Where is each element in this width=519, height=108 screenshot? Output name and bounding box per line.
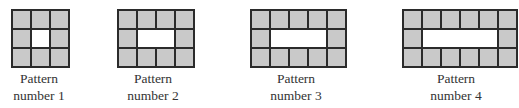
label-line-2: number 2 bbox=[127, 87, 178, 104]
label-line-1: Pattern bbox=[127, 70, 178, 87]
gray-tile bbox=[499, 11, 516, 28]
gray-tile bbox=[51, 49, 68, 66]
label-line-2: number 1 bbox=[13, 87, 64, 104]
tile-grid-4 bbox=[402, 9, 518, 68]
pattern-3-label: Pattern number 3 bbox=[270, 70, 321, 104]
hole bbox=[32, 30, 49, 47]
gray-tile bbox=[32, 11, 49, 28]
label-line-1: Pattern bbox=[270, 70, 321, 87]
gray-tile bbox=[13, 11, 30, 28]
label-line-2: number 4 bbox=[430, 87, 481, 104]
gray-tile bbox=[176, 11, 193, 28]
gray-tile bbox=[252, 49, 269, 66]
gray-tile bbox=[328, 49, 345, 66]
gray-tile bbox=[157, 49, 174, 66]
gray-tile bbox=[423, 49, 440, 66]
hole bbox=[271, 30, 326, 47]
gray-tile bbox=[499, 49, 516, 66]
gray-tile bbox=[119, 49, 136, 66]
label-line-2: number 3 bbox=[270, 87, 321, 104]
gray-tile bbox=[499, 30, 516, 47]
label-line-1: Pattern bbox=[13, 70, 64, 87]
gray-tile bbox=[119, 11, 136, 28]
gray-tile bbox=[51, 11, 68, 28]
gray-tile bbox=[309, 49, 326, 66]
gray-tile bbox=[252, 11, 269, 28]
gray-tile bbox=[176, 30, 193, 47]
gray-tile bbox=[290, 11, 307, 28]
gray-tile bbox=[290, 49, 307, 66]
gray-tile bbox=[442, 49, 459, 66]
gray-tile bbox=[309, 11, 326, 28]
gray-tile bbox=[271, 11, 288, 28]
hole bbox=[423, 30, 497, 47]
gray-tile bbox=[138, 11, 155, 28]
gray-tile bbox=[461, 11, 478, 28]
gray-tile bbox=[13, 49, 30, 66]
gray-tile bbox=[119, 30, 136, 47]
gray-tile bbox=[157, 11, 174, 28]
gray-tile bbox=[13, 30, 30, 47]
gray-tile bbox=[328, 11, 345, 28]
tile-grid-3 bbox=[250, 9, 347, 68]
tile-grid-1 bbox=[11, 9, 70, 68]
pattern-2-label: Pattern number 2 bbox=[127, 70, 178, 104]
pattern-1-label: Pattern number 1 bbox=[13, 70, 64, 104]
gray-tile bbox=[404, 30, 421, 47]
hole bbox=[138, 30, 174, 47]
gray-tile bbox=[176, 49, 193, 66]
gray-tile bbox=[32, 49, 49, 66]
gray-tile bbox=[138, 49, 155, 66]
gray-tile bbox=[271, 49, 288, 66]
gray-tile bbox=[404, 11, 421, 28]
gray-tile bbox=[461, 49, 478, 66]
gray-tile bbox=[51, 30, 68, 47]
label-line-1: Pattern bbox=[430, 70, 481, 87]
gray-tile bbox=[404, 49, 421, 66]
gray-tile bbox=[480, 49, 497, 66]
gray-tile bbox=[328, 30, 345, 47]
gray-tile bbox=[442, 11, 459, 28]
gray-tile bbox=[423, 11, 440, 28]
tile-grid-2 bbox=[117, 9, 195, 68]
pattern-4-label: Pattern number 4 bbox=[430, 70, 481, 104]
gray-tile bbox=[480, 11, 497, 28]
gray-tile bbox=[252, 30, 269, 47]
